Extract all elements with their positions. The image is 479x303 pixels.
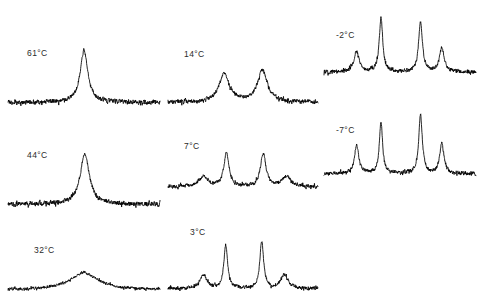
- nmr-spectra-figure: 61°C44°C32°C14°C7°C3°C-2°C-7°C: [0, 0, 479, 303]
- spectrum-panel-3c: [168, 240, 318, 294]
- spectrum-trace-svg: [324, 18, 476, 78]
- temperature-label-m7c: -7°C: [336, 126, 355, 135]
- spectrum-panel-61c: [8, 50, 160, 108]
- spectrum-panel-m2c: [324, 18, 476, 78]
- temperature-label-3c: 3°C: [190, 228, 205, 237]
- spectrum-trace-line: [8, 153, 160, 208]
- temperature-label-m2c: -2°C: [336, 31, 355, 40]
- spectrum-panel-32c: [8, 252, 160, 294]
- spectrum-trace-line: [8, 271, 160, 291]
- spectrum-trace-line: [168, 242, 318, 291]
- spectrum-trace-svg: [168, 240, 318, 294]
- temperature-label-61c: 61°C: [27, 49, 48, 58]
- spectrum-trace-svg: [8, 50, 160, 108]
- spectrum-trace-svg: [8, 152, 160, 210]
- temperature-label-44c: 44°C: [27, 151, 48, 160]
- spectrum-trace-svg: [8, 252, 160, 294]
- spectrum-trace-line: [324, 114, 476, 176]
- spectrum-trace-line: [324, 17, 476, 76]
- spectrum-panel-44c: [8, 152, 160, 210]
- spectrum-trace-line: [168, 69, 318, 105]
- spectrum-trace-line: [168, 152, 318, 189]
- temperature-label-14c: 14°C: [184, 50, 205, 59]
- temperature-label-7c: 7°C: [184, 142, 199, 151]
- temperature-label-32c: 32°C: [34, 246, 55, 255]
